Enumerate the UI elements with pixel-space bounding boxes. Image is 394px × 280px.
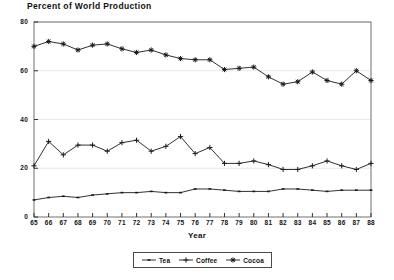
plus-marker-icon: [178, 255, 194, 265]
x-axis-tick-label: 82: [275, 219, 291, 226]
data-point-marker: [280, 82, 285, 87]
data-point-marker: [134, 50, 139, 55]
x-axis-tick-label: 86: [334, 219, 350, 226]
data-point-marker: [222, 67, 227, 72]
x-axis-tick-label: 65: [26, 219, 42, 226]
x-axis-tick-label: 71: [114, 219, 130, 226]
series-coffee: [31, 134, 373, 172]
y-axis-tick-label: 40: [12, 116, 28, 123]
legend-label: Coffee: [196, 257, 217, 264]
x-axis-tick-label: 76: [187, 219, 203, 226]
data-point-marker: [251, 158, 256, 163]
x-axis-tick-label: 83: [290, 219, 306, 226]
series-line: [34, 137, 371, 170]
data-point-marker: [105, 149, 110, 154]
series-tea: [33, 189, 373, 200]
legend-entry-coffee[interactable]: Coffee: [178, 255, 217, 265]
data-point-marker: [75, 47, 80, 52]
series-cocoa: [31, 39, 373, 87]
x-axis-tick-label: 85: [319, 219, 335, 226]
x-axis-tick-label: 72: [129, 219, 145, 226]
data-point-marker: [280, 167, 285, 172]
data-point-marker: [90, 142, 95, 147]
asterisk-marker-icon: [225, 255, 241, 265]
chart-container: Percent of World Production 020406080 65…: [0, 0, 394, 280]
x-axis-tick-label: 87: [348, 219, 364, 226]
data-point-marker: [163, 52, 168, 57]
chart-title: Percent of World Production: [27, 1, 152, 11]
data-point-marker: [310, 163, 315, 168]
data-point-marker: [31, 44, 36, 49]
x-axis-tick-label: 70: [99, 219, 115, 226]
y-axis-tick-label: 20: [12, 164, 28, 171]
legend-label: Tea: [159, 257, 170, 264]
data-point-marker: [266, 74, 271, 79]
data-point-marker: [237, 66, 242, 71]
data-point-marker: [183, 257, 188, 262]
data-point-marker: [310, 69, 315, 74]
data-point-marker: [354, 68, 359, 73]
legend-label: Cocoa: [243, 257, 264, 264]
data-point-marker: [237, 161, 242, 166]
data-point-marker: [207, 57, 212, 62]
data-point-marker: [31, 163, 36, 168]
data-point-marker: [266, 162, 271, 167]
x-axis-tick-label: 78: [216, 219, 232, 226]
data-point-marker: [368, 78, 373, 83]
x-axis-title: Year: [0, 231, 394, 240]
data-point-marker: [339, 82, 344, 87]
x-axis-tick-label: 68: [70, 219, 86, 226]
data-point-marker: [295, 167, 300, 172]
data-point-marker: [149, 47, 154, 52]
data-point-marker: [105, 41, 110, 46]
dash-marker-icon: [141, 255, 157, 265]
data-point-marker: [193, 57, 198, 62]
data-point-marker: [368, 161, 373, 166]
data-point-marker: [339, 163, 344, 168]
data-point-marker: [251, 64, 256, 69]
legend-entry-cocoa[interactable]: Cocoa: [225, 255, 264, 265]
x-axis-tick-label: 80: [246, 219, 262, 226]
x-axis-tick-label: 75: [173, 219, 189, 226]
data-point-marker: [324, 78, 329, 83]
data-point-marker: [231, 257, 236, 262]
legend-entry-tea[interactable]: Tea: [141, 255, 170, 265]
data-point-marker: [119, 46, 124, 51]
series-line: [34, 189, 371, 200]
x-axis-tick-label: 79: [231, 219, 247, 226]
x-axis-tick-label: 66: [41, 219, 57, 226]
data-point-marker: [295, 79, 300, 84]
legend: TeaCoffeeCocoa: [133, 252, 272, 268]
x-axis-tick-label: 67: [55, 219, 71, 226]
data-point-marker: [324, 158, 329, 163]
x-axis-tick-label: 74: [158, 219, 174, 226]
x-axis-tick-label: 84: [304, 219, 320, 226]
data-point-marker: [354, 167, 359, 172]
y-axis-tick-label: 80: [12, 18, 28, 25]
data-point-marker: [119, 140, 124, 145]
x-axis-tick-label: 73: [143, 219, 159, 226]
data-point-marker: [90, 43, 95, 48]
data-point-marker: [75, 142, 80, 147]
x-axis-tick-label: 81: [260, 219, 276, 226]
x-axis-tick-label: 88: [363, 219, 379, 226]
data-point-marker: [178, 56, 183, 61]
data-point-marker: [163, 144, 168, 149]
x-axis-tick-label: 77: [202, 219, 218, 226]
data-point-marker: [46, 39, 51, 44]
x-axis-tick-label: 69: [85, 219, 101, 226]
y-axis-tick-label: 60: [12, 67, 28, 74]
data-point-marker: [61, 41, 66, 46]
series-line: [34, 42, 371, 85]
